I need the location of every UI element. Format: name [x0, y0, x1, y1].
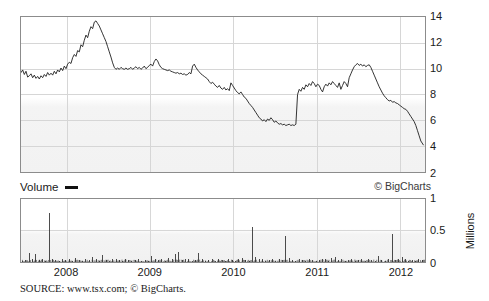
stock-chart-figure: 2468101214 Volume © BigCharts 00.51 Mill…: [0, 0, 489, 301]
x-tick-2010: 2010: [221, 266, 245, 278]
x-tick-2011: 2011: [305, 266, 329, 278]
volume-legend-label: Volume: [20, 181, 58, 193]
bigcharts-credit: © BigCharts: [374, 180, 431, 192]
price-y-tick-4: 4: [430, 141, 436, 152]
price-series-line: [21, 21, 423, 145]
price-y-tick-10: 10: [430, 63, 442, 74]
x-tick-2008: 2008: [54, 266, 78, 278]
volume-y-tick-0.5: 0.5: [430, 225, 445, 236]
price-y-axis-labels: 2468101214: [430, 16, 456, 173]
x-tick-2012: 2012: [389, 266, 413, 278]
price-y-tick-6: 6: [430, 115, 436, 126]
x-axis-labels: 20082009201020112012: [0, 266, 489, 280]
millions-axis-title: Millions: [463, 198, 477, 264]
volume-bars: [22, 213, 422, 262]
volume-chart-plot: [21, 199, 425, 262]
price-y-tick-8: 8: [430, 89, 436, 100]
price-chart-panel: [20, 16, 426, 173]
price-y-tick-14: 14: [430, 11, 442, 22]
x-tick-2009: 2009: [138, 266, 162, 278]
volume-legend: Volume: [20, 180, 78, 194]
price-chart-plot: [21, 17, 425, 172]
volume-line-swatch: [65, 186, 78, 189]
volume-y-axis-labels: 00.51: [430, 198, 456, 263]
volume-chart-panel: [20, 198, 426, 263]
price-y-tick-12: 12: [430, 37, 442, 48]
volume-y-tick-1: 1: [430, 193, 436, 204]
source-note: SOURCE: www.tsx.com; © BigCharts.: [20, 283, 186, 294]
price-y-tick-2: 2: [430, 168, 436, 179]
volume-baseline-noise: [22, 260, 424, 262]
